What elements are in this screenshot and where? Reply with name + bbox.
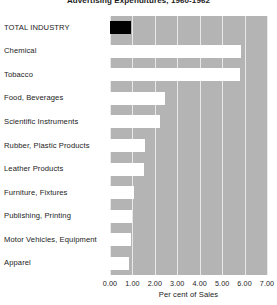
category-label: Tobacco (4, 70, 108, 79)
bar (110, 92, 165, 105)
bar-row (110, 186, 267, 199)
bar (110, 45, 241, 58)
bar (110, 21, 131, 34)
gridline (267, 16, 268, 275)
bar-row (110, 92, 267, 105)
plot-area (110, 16, 267, 275)
category-label: Food, Beverages (4, 93, 108, 102)
bar-row (110, 68, 267, 81)
category-label: Apparel (4, 258, 108, 267)
category-label: Publishing, Printing (4, 211, 108, 220)
bar-row (110, 115, 267, 128)
bar-row (110, 233, 267, 246)
x-axis-title: Per cent of Sales (110, 290, 267, 299)
bar-row (110, 257, 267, 270)
bar (110, 186, 134, 199)
category-label: Leather Products (4, 164, 108, 173)
chart-title: Advertising Expenditures, 1960-1962 (0, 0, 277, 5)
advertising-expenditures-bar-chart: Advertising Expenditures, 1960-1962 TOTA… (0, 0, 277, 305)
bar (110, 139, 145, 152)
bar-row (110, 139, 267, 152)
bar (110, 233, 131, 246)
bar (110, 163, 144, 176)
bar-row (110, 210, 267, 223)
category-label: Furniture, Fixtures (4, 188, 108, 197)
category-label: Chemical (4, 46, 108, 55)
bar-row (110, 163, 267, 176)
category-label: TOTAL INDUSTRY (4, 23, 108, 32)
category-label: Motor Vehicles, Equipment (4, 235, 108, 244)
category-label: Rubber, Plastic Products (4, 141, 108, 150)
bar (110, 68, 240, 81)
bar (110, 210, 132, 223)
bar (110, 115, 160, 128)
bar-row (110, 21, 267, 34)
x-tick-label: 7.00 (254, 279, 277, 288)
category-label: Scientific Instruments (4, 117, 108, 126)
bar-row (110, 45, 267, 58)
bar (110, 257, 129, 270)
